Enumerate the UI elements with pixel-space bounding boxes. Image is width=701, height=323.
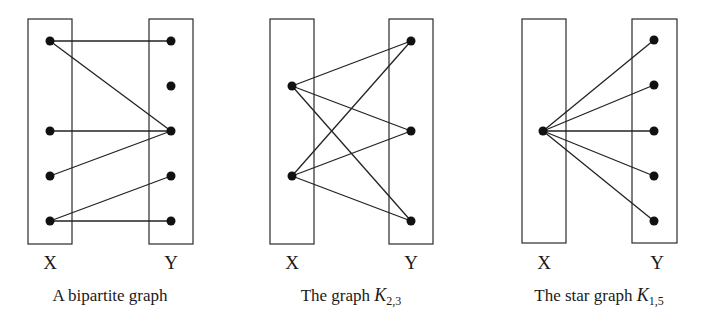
caption-subscript: 2,3 <box>386 294 401 308</box>
vertex-x1 <box>288 82 297 91</box>
vertex-y4 <box>167 172 176 181</box>
edge-x3-y3 <box>50 131 171 176</box>
edge-x2-y2 <box>292 131 411 176</box>
partition-label-x: X <box>43 252 57 273</box>
diagram-k23: XYThe graph K2,3 <box>270 19 433 308</box>
edge-x2-y1 <box>292 41 411 176</box>
vertex-x2 <box>288 172 297 181</box>
vertex-y2 <box>407 127 416 136</box>
vertex-y5 <box>167 217 176 226</box>
vertex-x1 <box>46 37 55 46</box>
vertex-x3 <box>46 172 55 181</box>
diagram-caption: The star graph K1,5 <box>534 285 663 308</box>
vertex-x2 <box>46 127 55 136</box>
edge-x1-y1 <box>292 41 411 86</box>
diagram-bipartite: XYA bipartite graph <box>28 19 193 305</box>
edges <box>50 41 171 221</box>
edge-x1-y4 <box>543 131 654 176</box>
edges <box>292 41 411 221</box>
vertex-y3 <box>407 217 416 226</box>
caption-symbol: K <box>373 285 387 305</box>
vertex-y3 <box>167 127 176 136</box>
vertex-y2 <box>650 81 659 90</box>
edge-x1-y3 <box>50 41 171 131</box>
partition-box-x <box>270 19 314 244</box>
edge-x2-y3 <box>292 176 411 221</box>
vertex-y1 <box>650 36 659 45</box>
edge-x1-y5 <box>543 131 654 221</box>
partition-label-x: X <box>537 252 551 273</box>
edge-x1-y2 <box>543 85 654 131</box>
vertex-y4 <box>650 172 659 181</box>
edges <box>543 40 654 221</box>
partition-label-y: Y <box>404 252 418 273</box>
vertex-y1 <box>407 37 416 46</box>
caption-text: The star graph <box>534 286 636 305</box>
diagram-star15: XYThe star graph K1,5 <box>522 19 677 308</box>
caption-text: The graph <box>301 286 375 305</box>
diagram-caption: The graph K2,3 <box>301 285 402 308</box>
partition-label-y: Y <box>164 252 178 273</box>
edge-x4-y4 <box>50 176 171 221</box>
partition-label-y: Y <box>650 252 664 273</box>
diagrams-root: XYA bipartite graphXYThe graph K2,3XYThe… <box>28 19 677 308</box>
vertex-y1 <box>167 37 176 46</box>
vertex-x4 <box>46 217 55 226</box>
edge-x1-y1 <box>543 40 654 131</box>
vertex-y2 <box>167 82 176 91</box>
caption-subscript: 1,5 <box>649 294 664 308</box>
caption-text: A bipartite graph <box>52 286 168 305</box>
bipartite-graphs-figure: XYA bipartite graphXYThe graph K2,3XYThe… <box>0 0 701 323</box>
vertex-y3 <box>650 127 659 136</box>
diagram-caption: A bipartite graph <box>52 286 168 305</box>
vertex-x1 <box>539 127 548 136</box>
vertex-y5 <box>650 217 659 226</box>
partition-label-x: X <box>285 252 299 273</box>
caption-symbol: K <box>636 285 650 305</box>
